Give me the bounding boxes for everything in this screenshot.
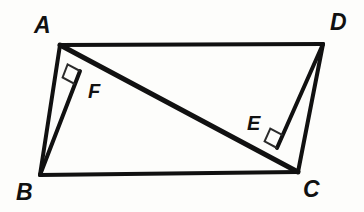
side-DC xyxy=(298,44,323,172)
vertex-label-c: C xyxy=(303,178,320,201)
side-BC xyxy=(40,172,298,175)
geometry-figure: A B C D E F xyxy=(0,0,364,212)
vertex-label-b: B xyxy=(16,181,33,204)
vertex-label-f: F xyxy=(88,81,100,101)
diagonal-AC xyxy=(60,45,298,172)
vertex-label-a: A xyxy=(34,14,51,37)
vertex-label-d: D xyxy=(330,11,347,34)
side-AD xyxy=(60,44,323,45)
vertex-label-e: E xyxy=(247,113,260,133)
side-AB xyxy=(40,45,60,175)
perpendicular-DE xyxy=(277,44,323,148)
diagonal-group xyxy=(60,45,298,172)
